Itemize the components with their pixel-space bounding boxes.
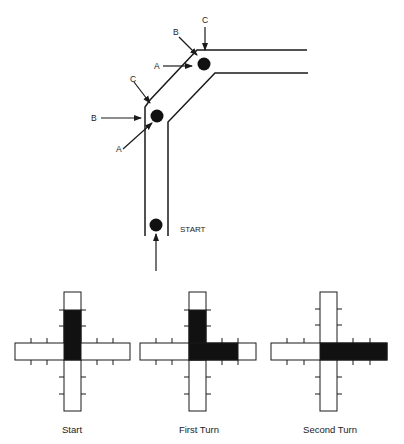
position-dot-start (150, 219, 163, 232)
label-b-upper: B (173, 27, 179, 37)
panel-first-turn (140, 292, 256, 411)
caption-first-turn: First Turn (179, 424, 219, 435)
filled-segment-horizontal (189, 343, 238, 360)
arrow-c-lower (134, 82, 150, 103)
position-dot-middle (151, 110, 164, 123)
label-c-lower: C (130, 74, 136, 84)
corridor (145, 50, 308, 236)
position-dot-upper (198, 58, 211, 71)
label-c-upper: C (202, 15, 208, 25)
filled-segment (64, 310, 81, 360)
panel-second-turn (271, 292, 387, 411)
label-start: START (180, 225, 206, 234)
filled-segment (320, 343, 387, 360)
label-a-lower: A (116, 144, 122, 154)
arrow-a-lower (123, 123, 152, 149)
caption-second-turn: Second Turn (303, 424, 357, 435)
label-a-upper: A (154, 61, 160, 71)
label-b-lower: B (91, 113, 97, 123)
diagram-canvas: C B A C B A START Start (0, 0, 404, 444)
panel-start (15, 292, 130, 411)
caption-start: Start (62, 424, 82, 435)
corridor-inner-wall (168, 73, 308, 236)
corridor-outer-wall (145, 50, 307, 236)
arrow-b-upper (179, 37, 197, 55)
